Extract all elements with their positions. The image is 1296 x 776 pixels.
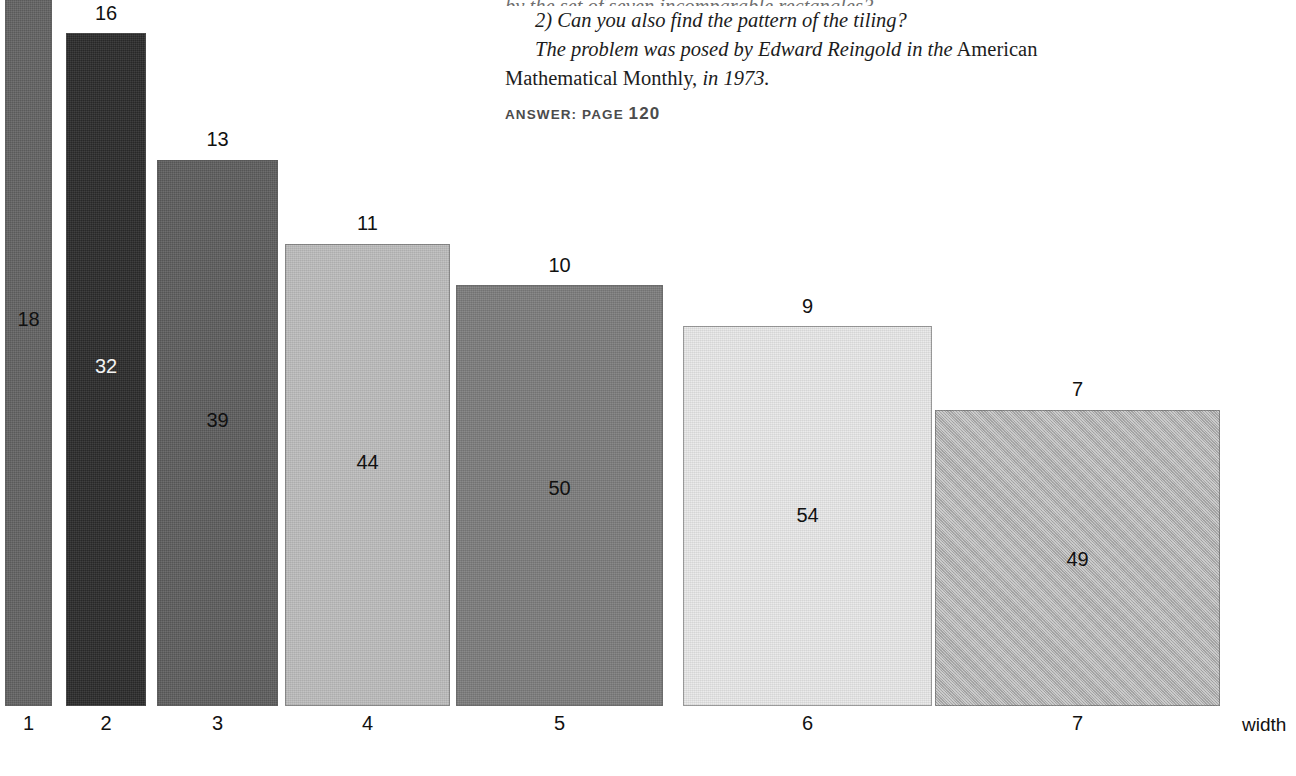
- bar-3-texture: [157, 160, 278, 706]
- bar-2-width-label: 2: [66, 712, 146, 735]
- bar-2-height-label: 16: [66, 2, 146, 25]
- bar-7[interactable]: 49: [935, 410, 1220, 706]
- bar-3[interactable]: 39: [157, 160, 278, 706]
- bar-1-texture: [5, 0, 52, 706]
- page-canvas: by the set of seven incomparable rectang…: [0, 0, 1296, 776]
- bar-3-height-label: 13: [157, 128, 278, 151]
- bar-chart: 18 1 32 16 2 39 13 3 44 11 4: [0, 0, 1296, 776]
- bar-2-area-label: 32: [66, 355, 146, 378]
- bar-1-area-label: 18: [5, 308, 52, 331]
- bar-4-width-label: 4: [285, 712, 450, 735]
- bar-6[interactable]: 54: [683, 326, 932, 706]
- bar-2[interactable]: 32: [66, 33, 146, 706]
- bar-6-width-label: 6: [683, 712, 932, 735]
- bar-6-area-label: 54: [683, 504, 932, 527]
- bar-5-area-label: 50: [456, 477, 663, 500]
- bar-1[interactable]: 18: [5, 0, 52, 706]
- bar-7-area-label: 49: [935, 548, 1220, 571]
- x-axis-caption: width: [1242, 714, 1286, 736]
- bar-5-height-label: 10: [456, 254, 663, 277]
- bar-4-height-label: 11: [285, 212, 450, 235]
- bar-4-area-label: 44: [285, 451, 450, 474]
- bar-3-width-label: 3: [157, 712, 278, 735]
- bar-3-area-label: 39: [157, 409, 278, 432]
- bar-4-texture: [285, 244, 450, 706]
- bar-7-width-label: 7: [935, 712, 1220, 735]
- bar-5-width-label: 5: [456, 712, 663, 735]
- bar-6-height-label: 9: [683, 295, 932, 318]
- bar-4[interactable]: 44: [285, 244, 450, 706]
- bar-7-height-label: 7: [935, 378, 1220, 401]
- bar-1-width-label: 1: [5, 712, 52, 735]
- bar-5[interactable]: 50: [456, 285, 663, 706]
